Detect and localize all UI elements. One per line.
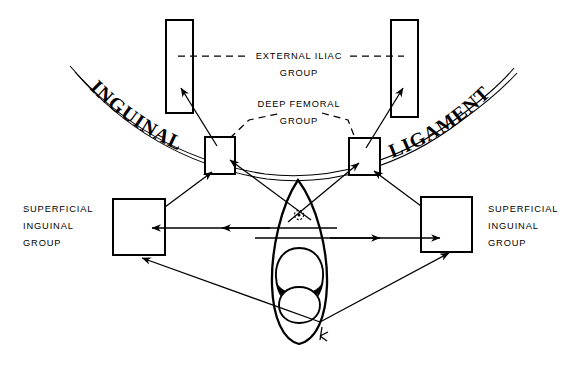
superficial-inguinal-left-label-line2: INGUINAL — [23, 221, 74, 231]
deep-femoral-right-node — [349, 138, 380, 175]
superficial-inguinal-right-label-line1: SUPERFICIAL — [488, 204, 558, 214]
arrow-superficial-left-to-deep-femoral — [165, 172, 212, 207]
arrow-superficial-right-to-deep-femoral — [374, 171, 421, 206]
superficial-inguinal-left-node — [113, 199, 165, 255]
superficial-inguinal-right-label-line3: GROUP — [488, 238, 526, 248]
superficial-inguinal-right-node — [421, 197, 472, 252]
superficial-inguinal-right-label-line2: INGUINAL — [488, 221, 539, 231]
arrow-base-to-superficial-right — [320, 253, 449, 322]
external-iliac-right-node — [391, 20, 418, 117]
external-iliac-label-line1: EXTERNAL ILIAC — [256, 51, 342, 61]
superficial-inguinal-left-label-line1: SUPERFICIAL — [23, 204, 93, 214]
urethral-meatus-icon — [279, 287, 320, 323]
lymphatic-drainage-diagram: EXTERNAL ILIAC GROUP DEEP FEMORAL GROUP … — [0, 0, 579, 368]
deep-femoral-label-line2: GROUP — [280, 116, 318, 126]
diagram-canvas: EXTERNAL ILIAC GROUP DEEP FEMORAL GROUP … — [0, 0, 579, 368]
deep-femoral-left-node — [205, 137, 235, 174]
deep-femoral-label-line1: DEEP FEMORAL — [258, 99, 341, 109]
external-iliac-left-node — [166, 20, 193, 113]
arrow-deep-femoral-left-to-external-iliac — [181, 88, 217, 146]
external-iliac-label-line2: GROUP — [280, 68, 318, 78]
deep-femoral-leader-left — [230, 113, 282, 138]
superficial-inguinal-left-label-line3: GROUP — [23, 238, 61, 248]
deep-femoral-leader-right — [322, 113, 355, 138]
orientation-marker-icon — [320, 327, 328, 341]
